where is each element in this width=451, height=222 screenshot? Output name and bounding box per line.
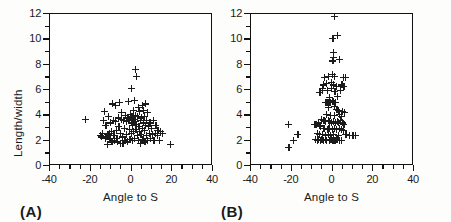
y-tick	[246, 26, 250, 27]
y-tick	[246, 127, 250, 128]
y-tick	[43, 38, 49, 39]
y-tick-label: 4	[236, 108, 242, 120]
x-tick	[171, 165, 172, 171]
x-tick-minor	[181, 165, 182, 169]
data-point	[156, 137, 163, 144]
y-tick-label: 6	[236, 83, 242, 95]
x-tick	[372, 165, 373, 171]
y-tick	[45, 102, 49, 103]
x-tick-minor	[321, 165, 322, 169]
x-tick	[311, 165, 312, 169]
figure-scatter-panels: 024681012-40-2002040 Angle to S Length/w…	[0, 0, 451, 222]
y-tick	[43, 114, 49, 115]
y-tick	[244, 89, 250, 90]
x-tick-label: 20	[366, 173, 378, 185]
data-point	[133, 73, 140, 80]
data-point	[159, 130, 166, 137]
y-tick	[246, 76, 250, 77]
x-tick-label: -40	[243, 173, 258, 185]
y-tick	[43, 13, 49, 14]
x-tick	[131, 165, 132, 171]
x-tick-label: -20	[283, 173, 298, 185]
x-tick	[413, 165, 414, 171]
x-tick-minor	[260, 165, 261, 169]
x-tick	[250, 165, 251, 171]
x-axis-title-a: Angle to S	[49, 191, 212, 203]
x-tick-label: 0	[128, 173, 134, 185]
data-point	[131, 97, 138, 104]
x-tick	[212, 165, 213, 171]
x-tick-label: 0	[329, 173, 335, 185]
y-tick	[45, 26, 49, 27]
x-tick-label: 20	[165, 173, 177, 185]
y-tick	[45, 76, 49, 77]
x-tick-minor	[120, 165, 121, 169]
y-tick	[43, 89, 49, 90]
panel-a: 024681012-40-2002040 Angle to S Length/w…	[0, 0, 225, 222]
x-tick-minor	[80, 165, 81, 169]
y-tick-label: 8	[236, 58, 242, 70]
x-tick-minor	[362, 165, 363, 169]
plot-area-a	[49, 13, 212, 165]
x-tick-minor	[301, 165, 302, 169]
data-point	[342, 74, 349, 81]
scatter-points-b	[251, 14, 412, 164]
x-tick	[291, 165, 292, 171]
data-point	[336, 56, 343, 63]
data-point	[341, 109, 348, 116]
x-axis-title-b: Angle to S	[250, 191, 413, 203]
x-tick-label: 40	[206, 173, 218, 185]
x-tick	[393, 165, 394, 169]
data-point	[316, 89, 323, 96]
x-tick-minor	[161, 165, 162, 169]
data-point	[334, 32, 341, 39]
panel-label-a: (A)	[20, 203, 42, 220]
x-tick-minor	[281, 165, 282, 169]
y-tick	[45, 127, 49, 128]
y-tick-label: 10	[29, 32, 41, 44]
x-tick-minor	[100, 165, 101, 169]
plot-area-b	[250, 13, 413, 165]
data-point	[285, 144, 292, 151]
x-tick	[270, 165, 271, 169]
x-tick-label: -20	[82, 173, 97, 185]
data-point	[331, 14, 338, 20]
y-axis-title-a: Length/width	[12, 89, 24, 157]
y-tick	[244, 38, 250, 39]
y-tick-label: 10	[230, 32, 242, 44]
y-tick	[246, 152, 250, 153]
x-tick	[110, 165, 111, 169]
y-tick	[244, 114, 250, 115]
x-tick-label: -40	[42, 173, 57, 185]
x-tick	[151, 165, 152, 169]
data-point	[338, 137, 345, 144]
y-tick	[45, 152, 49, 153]
x-tick	[90, 165, 91, 171]
data-point	[167, 141, 174, 148]
panel-b: 024681012-40-2002040 Angle to S (B)	[226, 0, 451, 222]
x-tick	[332, 165, 333, 171]
x-tick-minor	[202, 165, 203, 169]
y-tick	[246, 51, 250, 52]
y-tick-label: 0	[35, 159, 41, 171]
scatter-points-a	[50, 14, 211, 164]
y-tick-label: 2	[35, 134, 41, 146]
y-tick	[244, 140, 250, 141]
x-tick	[69, 165, 70, 169]
y-tick-label: 0	[236, 159, 242, 171]
x-tick	[352, 165, 353, 169]
y-tick-label: 2	[236, 134, 242, 146]
y-tick	[246, 102, 250, 103]
y-tick-label: 4	[35, 108, 41, 120]
x-tick-minor	[342, 165, 343, 169]
y-tick	[43, 64, 49, 65]
data-point	[142, 100, 149, 107]
y-tick	[244, 13, 250, 14]
panel-label-b: (B)	[221, 203, 243, 220]
y-tick	[43, 140, 49, 141]
x-tick-minor	[59, 165, 60, 169]
data-point	[116, 99, 123, 106]
x-tick-minor	[141, 165, 142, 169]
x-tick-minor	[403, 165, 404, 169]
y-tick-label: 12	[230, 7, 242, 19]
